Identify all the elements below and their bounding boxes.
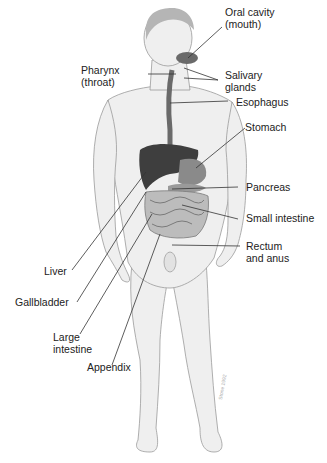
oral-cavity	[176, 52, 198, 64]
label-appendix: Appendix	[87, 361, 131, 373]
label-salivary-glands: Salivary glands	[225, 69, 262, 93]
anatomy-figure: Stone 1992	[0, 0, 327, 463]
label-rectum-anus: Rectum and anus	[246, 240, 289, 264]
genitals	[164, 252, 176, 272]
label-oral-cavity: Oral cavity (mouth)	[225, 6, 275, 30]
label-stomach: Stomach	[245, 121, 286, 133]
label-gallbladder: Gallbladder	[15, 296, 69, 308]
label-large-intestine: Large intestine	[53, 331, 92, 355]
svg-text:Stone 1992: Stone 1992	[217, 374, 227, 400]
label-esophagus: Esophagus	[236, 96, 289, 108]
label-pancreas: Pancreas	[246, 181, 290, 193]
label-liver: Liver	[44, 265, 67, 277]
label-small-intestine: Small intestine	[246, 212, 314, 224]
label-pharynx: Pharynx (throat)	[81, 64, 120, 88]
